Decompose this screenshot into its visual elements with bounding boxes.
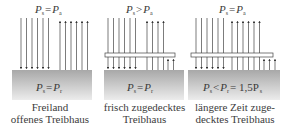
glass-pane [191, 53, 273, 57]
panel-frisch-zugedeckt: Ps>Pa Ps=Pr frisch zugedecktes Treibhaus [97, 0, 192, 130]
outgoing-radiation-arrows [232, 22, 260, 70]
caption: längere Zeit zuge- decktes Treibhaus [182, 101, 288, 125]
panel-freiland: Ps=Pa Ps=Pr Freiland offenes Treibhaus [0, 0, 100, 130]
top-formula: Ps=Pa [219, 3, 246, 16]
caption: frisch zugedecktes Treibhaus [97, 101, 192, 125]
caption-line-2: decktes Treibhaus [182, 113, 288, 125]
top-formula: Ps=Pa [35, 3, 62, 16]
caption-line-2: offenes Treibhaus [0, 113, 100, 125]
outgoing-radiation-arrows [60, 22, 88, 70]
caption-line-1: frisch zugedecktes [97, 101, 192, 113]
incoming-radiation-arrows [21, 18, 49, 68]
glass-pane [105, 53, 175, 57]
panel-laenger-zugedeckt: Ps=Pa Ps<Pr= 1,5Ps längere Zeit zuge- de… [188, 0, 294, 130]
trapped-radiation-arrows [264, 60, 275, 70]
incoming-radiation-arrows [108, 18, 136, 68]
top-formula: Ps>Pa [126, 3, 153, 16]
incoming-radiation-arrows [196, 18, 224, 68]
caption-line-2: Treibhaus [97, 113, 192, 125]
caption-line-1: längere Zeit zuge- [182, 101, 288, 113]
ground-formula: Ps=Pr [36, 81, 62, 94]
outgoing-radiation-arrows [147, 22, 164, 70]
trapped-radiation-arrows [168, 60, 174, 70]
caption: Freiland offenes Treibhaus [0, 101, 100, 125]
caption-line-1: Freiland [0, 101, 100, 113]
ground-formula: Ps=Pr [127, 81, 153, 94]
ground-formula: Ps<Pr= 1,5Ps [203, 81, 262, 94]
